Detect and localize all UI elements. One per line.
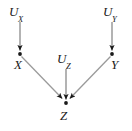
- edge-y-to-z: [70, 57, 111, 99]
- node-label-uy-base: U: [103, 4, 112, 19]
- node-label-uz: UZ: [57, 50, 71, 69]
- node-label-x: X: [14, 56, 22, 72]
- node-label-y-base: Y: [111, 57, 118, 72]
- node-label-uy: UY: [103, 3, 117, 22]
- node-label-ux: UX: [9, 3, 24, 22]
- causal-dag-figure: UX UY UZ X Y Z: [0, 0, 132, 131]
- node-label-ux-base: U: [9, 4, 18, 19]
- node-label-uz-base: U: [57, 51, 66, 66]
- node-label-z-base: Z: [60, 108, 67, 123]
- node-label-y: Y: [111, 56, 118, 72]
- node-label-z: Z: [60, 107, 67, 123]
- node-label-ux-subscript: X: [18, 14, 23, 24]
- node-dot-z: [64, 101, 68, 105]
- node-label-x-base: X: [14, 57, 22, 72]
- node-label-uz-subscript: Z: [66, 61, 71, 71]
- node-label-uy-subscript: Y: [112, 14, 117, 24]
